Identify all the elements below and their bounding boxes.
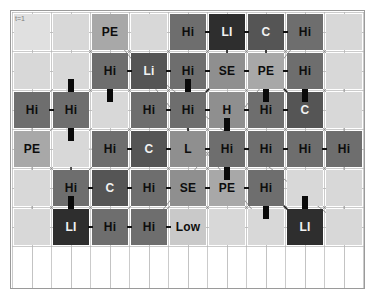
- link-stub: [166, 148, 171, 150]
- connector-bar: [68, 128, 74, 141]
- link-stub: [244, 148, 249, 150]
- link-stub: [88, 226, 93, 228]
- link-stub: [127, 148, 132, 150]
- link-stub: [244, 31, 249, 33]
- connector-bar: [107, 89, 113, 102]
- link-stub: [283, 109, 288, 111]
- link-stub: [166, 226, 171, 228]
- connector-bar: [185, 79, 191, 92]
- connector-bar: [302, 89, 308, 102]
- link-stub: [205, 70, 210, 72]
- link-stub: [244, 109, 249, 111]
- link-stub: [244, 187, 249, 189]
- connector-bar: [224, 118, 230, 131]
- connector-bar: [302, 196, 308, 209]
- link-stub: [322, 148, 327, 150]
- link-stub: [127, 226, 132, 228]
- connector-bar: [263, 206, 269, 219]
- figure-canvas: PEHiLICHiHiLiHiSEPEHiHiHiHiHiHHiCPEHiCLH…: [0, 0, 372, 300]
- connector-bar: [263, 89, 269, 102]
- link-stub: [205, 148, 210, 150]
- connector-bar: [224, 167, 230, 180]
- link-stub: [166, 187, 171, 189]
- link-stub: [283, 31, 288, 33]
- link-stub: [205, 31, 210, 33]
- time-step-label: t=1: [15, 15, 25, 22]
- connector-bar: [68, 196, 74, 209]
- connector-layer: [0, 0, 372, 300]
- link-stub: [205, 109, 210, 111]
- link-stub: [283, 148, 288, 150]
- link-stub: [49, 109, 54, 111]
- link-stub: [88, 187, 93, 189]
- link-stub: [244, 70, 249, 72]
- link-stub: [127, 70, 132, 72]
- link-stub: [166, 70, 171, 72]
- link-stub: [205, 187, 210, 189]
- link-stub: [283, 70, 288, 72]
- link-stub: [166, 109, 171, 111]
- link-stub: [127, 187, 132, 189]
- connector-bar: [68, 79, 74, 92]
